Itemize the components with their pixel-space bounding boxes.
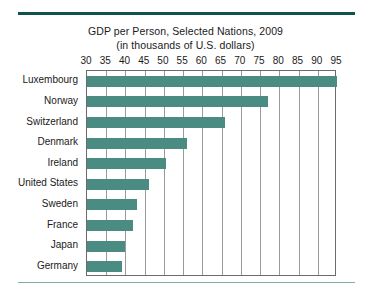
x-tick-label-45: 45 xyxy=(138,54,149,68)
category-label: United States xyxy=(18,177,78,189)
x-tick-label-35: 35 xyxy=(100,54,111,68)
category-axis-labels: LuxembourgNorwaySwitzerlandDenmarkIrelan… xyxy=(0,70,82,276)
x-tick-label-85: 85 xyxy=(292,54,303,68)
category-label: France xyxy=(47,219,78,231)
chart-title: GDP per Person, Selected Nations, 2009 xyxy=(0,24,371,38)
bars-layer xyxy=(87,71,335,275)
x-tick-label-95: 95 xyxy=(330,54,341,68)
bar xyxy=(87,179,149,190)
x-tick-label-55: 55 xyxy=(177,54,188,68)
category-label: Norway xyxy=(44,95,78,107)
bar xyxy=(87,76,337,87)
x-tick-label-90: 90 xyxy=(311,54,322,68)
x-axis-tick-labels: 3035404550556065707580859095 xyxy=(86,54,336,68)
bar xyxy=(87,158,166,169)
x-tick-label-75: 75 xyxy=(254,54,265,68)
bar xyxy=(87,241,125,252)
bar xyxy=(87,220,133,231)
category-label: Sweden xyxy=(42,198,78,210)
plot-area xyxy=(86,70,336,276)
category-label: Switzerland xyxy=(26,116,78,128)
x-tick-label-65: 65 xyxy=(215,54,226,68)
category-label: Germany xyxy=(37,260,78,272)
bar xyxy=(87,199,137,210)
bar xyxy=(87,261,122,272)
bar xyxy=(87,117,225,128)
chart-figure: GDP per Person, Selected Nations, 2009 (… xyxy=(0,0,371,296)
top-divider-rule xyxy=(18,12,355,15)
chart-title-block: GDP per Person, Selected Nations, 2009 (… xyxy=(0,24,371,52)
category-label: Japan xyxy=(51,239,78,251)
x-tick-label-70: 70 xyxy=(234,54,245,68)
bar xyxy=(87,96,268,107)
x-tick-label-30: 30 xyxy=(80,54,91,68)
bottom-divider-rule xyxy=(18,282,355,283)
x-tick-label-40: 40 xyxy=(119,54,130,68)
category-label: Denmark xyxy=(37,136,78,148)
x-tick-label-80: 80 xyxy=(273,54,284,68)
chart-subtitle: (in thousands of U.S. dollars) xyxy=(0,38,371,52)
x-tick-label-50: 50 xyxy=(157,54,168,68)
category-label: Luxembourg xyxy=(22,74,78,86)
category-label: Ireland xyxy=(47,157,78,169)
bar xyxy=(87,138,187,149)
x-tick-label-60: 60 xyxy=(196,54,207,68)
